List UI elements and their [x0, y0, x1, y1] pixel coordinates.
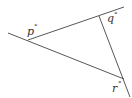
label-q-degree: °: [114, 11, 118, 19]
label-q-letter: q: [107, 12, 114, 25]
label-p-degree: °: [34, 23, 38, 31]
triangle-diagram: p ° q ° r °: [0, 0, 132, 98]
label-r-degree: °: [118, 80, 122, 88]
bottom-line: [8, 33, 124, 79]
label-r: r °: [112, 80, 122, 95]
label-q: q °: [107, 11, 118, 25]
label-p-letter: p: [27, 25, 34, 38]
label-p: p °: [27, 23, 38, 38]
